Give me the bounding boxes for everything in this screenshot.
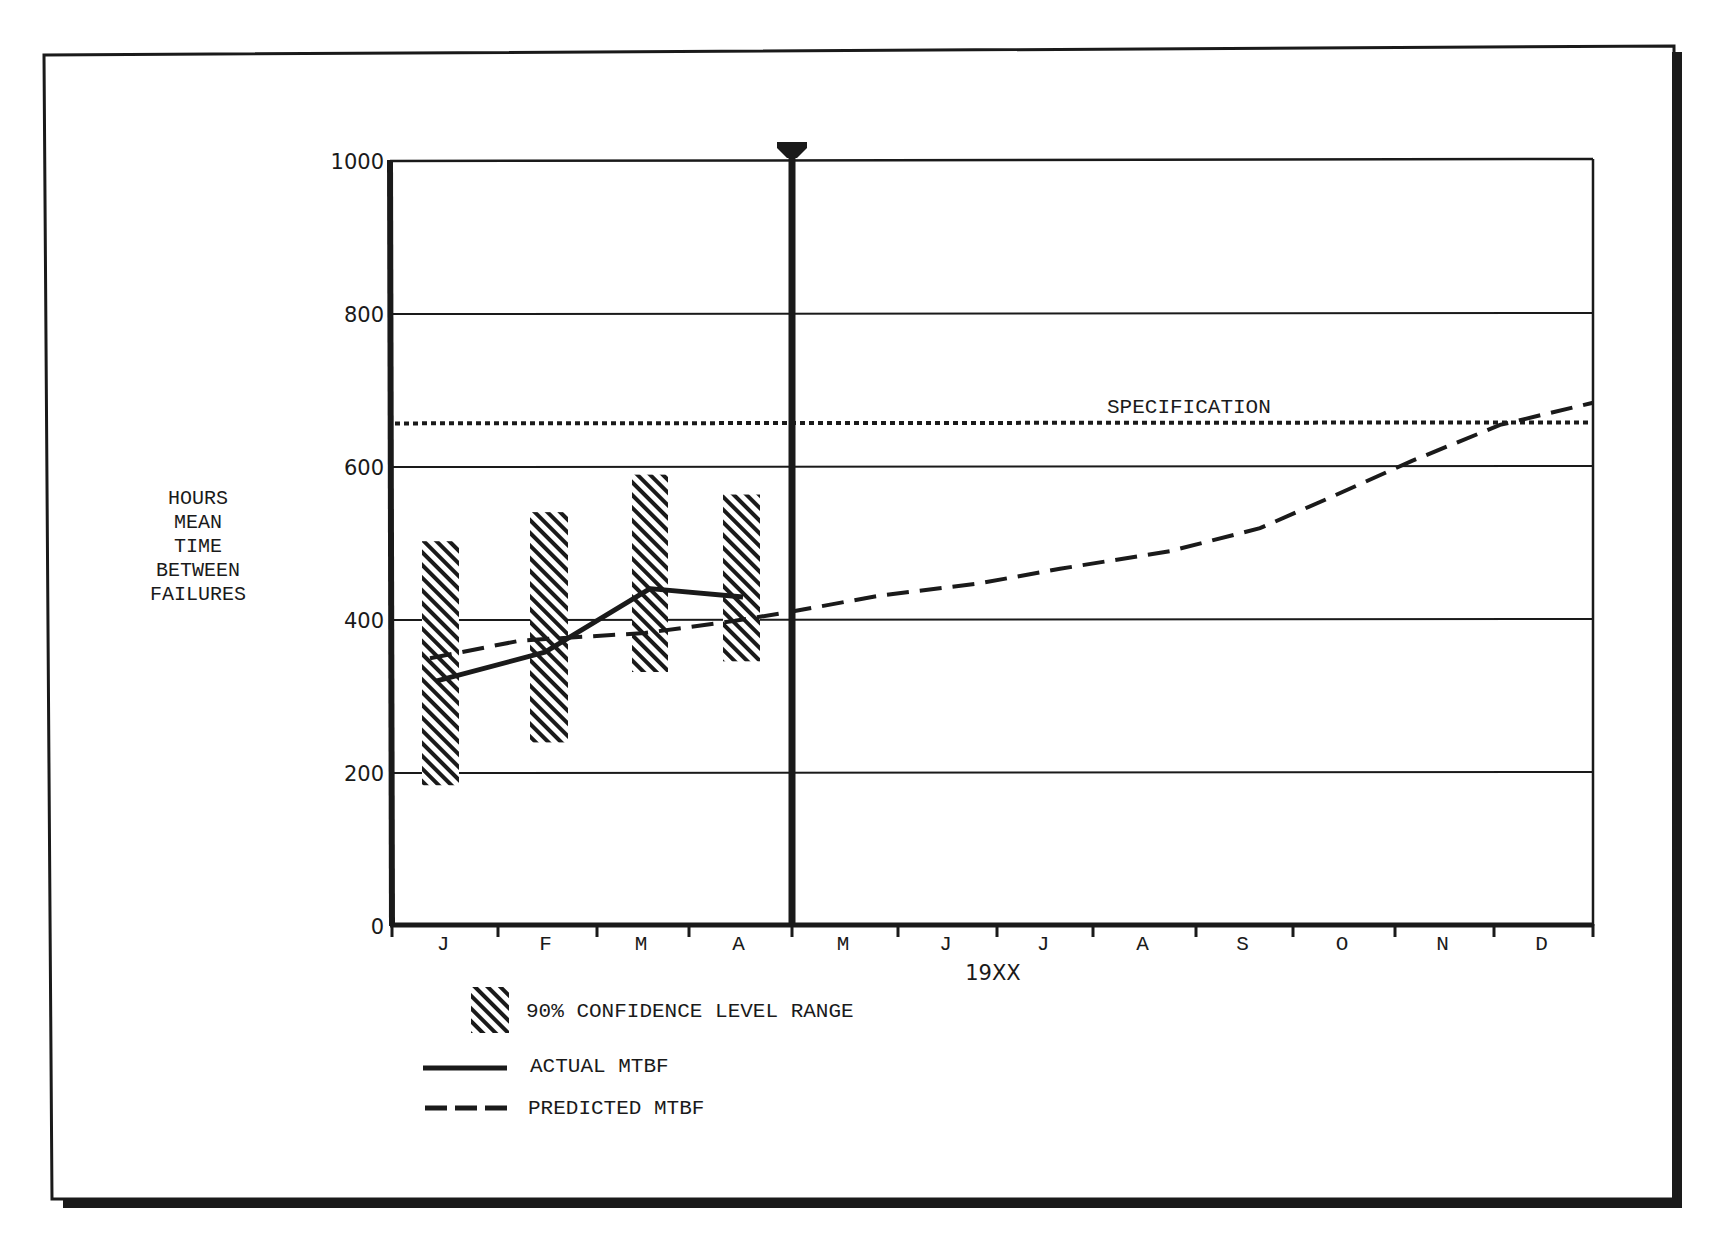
legend: 90% CONFIDENCE LEVEL RANGE ACTUAL MTBF P… xyxy=(423,987,854,1120)
y-tick-label: 1000 xyxy=(331,150,384,174)
confidence-range-bar xyxy=(422,541,459,785)
legend-label-actual: ACTUAL MTBF xyxy=(530,1055,669,1078)
x-tick-label: S xyxy=(1236,933,1249,956)
y-axis-label-line: HOURS xyxy=(168,487,228,510)
x-tick-label: N xyxy=(1436,933,1449,956)
x-axis-month-labels: JFMAMJJASOND xyxy=(437,933,1548,956)
actual-mtbf-line xyxy=(436,589,743,682)
gridline xyxy=(392,466,1593,467)
y-axis-label-line: TIME xyxy=(174,535,222,558)
y-tick-label: 400 xyxy=(344,609,384,633)
gridline xyxy=(392,313,1593,314)
confidence-range-bar xyxy=(632,475,668,672)
y-axis-label-line: MEAN xyxy=(174,511,222,534)
specification-label: SPECIFICATION xyxy=(1107,396,1271,419)
x-tick-label: J xyxy=(939,933,952,956)
legend-label-predicted: PREDICTED MTBF xyxy=(528,1097,704,1120)
frame-border xyxy=(44,46,1676,1199)
x-tick-label: M xyxy=(635,933,648,956)
mtbf-chart-figure: HOURSMEANTIMEBETWEENFAILURES 02004006008… xyxy=(0,0,1720,1237)
confidence-range-bar xyxy=(530,512,568,742)
y-axis-label: HOURSMEANTIMEBETWEENFAILURES xyxy=(150,487,246,606)
frame-shadow xyxy=(63,52,1682,1208)
x-tick-label: F xyxy=(539,933,552,956)
x-tick-label: J xyxy=(437,933,450,956)
y-axis-ticks: 02004006008001000 xyxy=(331,150,384,939)
legend-label-confidence: 90% CONFIDENCE LEVEL RANGE xyxy=(526,1000,854,1023)
y-tick-label: 200 xyxy=(344,762,384,786)
y-axis-label-line: BETWEEN xyxy=(156,559,240,582)
top-border xyxy=(390,159,1593,161)
y-tick-label: 800 xyxy=(344,303,384,327)
y-axis-label-line: FAILURES xyxy=(150,583,246,606)
x-tick-label: D xyxy=(1535,933,1548,956)
gridline xyxy=(392,772,1593,773)
x-tick-label: M xyxy=(837,933,850,956)
x-tick-label: A xyxy=(732,933,745,956)
page-frame xyxy=(44,46,1682,1208)
x-tick-label: J xyxy=(1037,933,1050,956)
confidence-range-bar xyxy=(723,495,760,662)
gridlines xyxy=(392,313,1593,773)
x-axis-label: 19XX xyxy=(965,961,1021,985)
x-tick-label: O xyxy=(1336,933,1349,956)
x-tick-label: A xyxy=(1136,933,1149,956)
axes xyxy=(390,142,1594,926)
current-period-marker-icon xyxy=(777,142,807,158)
gridline xyxy=(392,619,1593,620)
confidence-range-bars xyxy=(422,475,760,786)
specification-line: SPECIFICATION xyxy=(395,396,1592,423)
legend-hatch-swatch xyxy=(471,987,509,1033)
y-tick-label: 600 xyxy=(344,456,384,480)
y-axis xyxy=(390,160,392,926)
y-tick-label: 0 xyxy=(371,915,384,939)
